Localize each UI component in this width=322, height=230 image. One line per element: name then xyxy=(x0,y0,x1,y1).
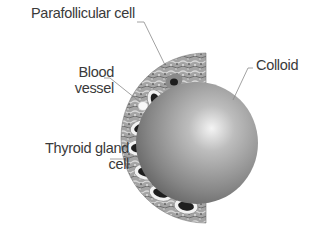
diagram-graphic xyxy=(0,0,322,230)
thyroid-follicle-diagram: Parafollicular cell Blood vessel Thyroid… xyxy=(0,0,322,230)
label-blood-vessel: Blood vessel xyxy=(60,64,114,96)
label-colloid: Colloid xyxy=(256,57,298,73)
label-thyroid-line2: cell xyxy=(16,156,129,172)
leader-line-colloid xyxy=(233,68,253,100)
label-blood-vessel-line2: vessel xyxy=(60,80,114,96)
label-blood-vessel-line1: Blood xyxy=(60,64,114,80)
colloid-sphere xyxy=(136,82,258,204)
leader-line-parafollicular xyxy=(137,22,165,65)
label-thyroid-gland-cell: Thyroid gland cell xyxy=(16,140,129,172)
label-parafollicular-cell: Parafollicular cell xyxy=(31,5,135,21)
label-thyroid-line1: Thyroid gland xyxy=(16,140,129,156)
